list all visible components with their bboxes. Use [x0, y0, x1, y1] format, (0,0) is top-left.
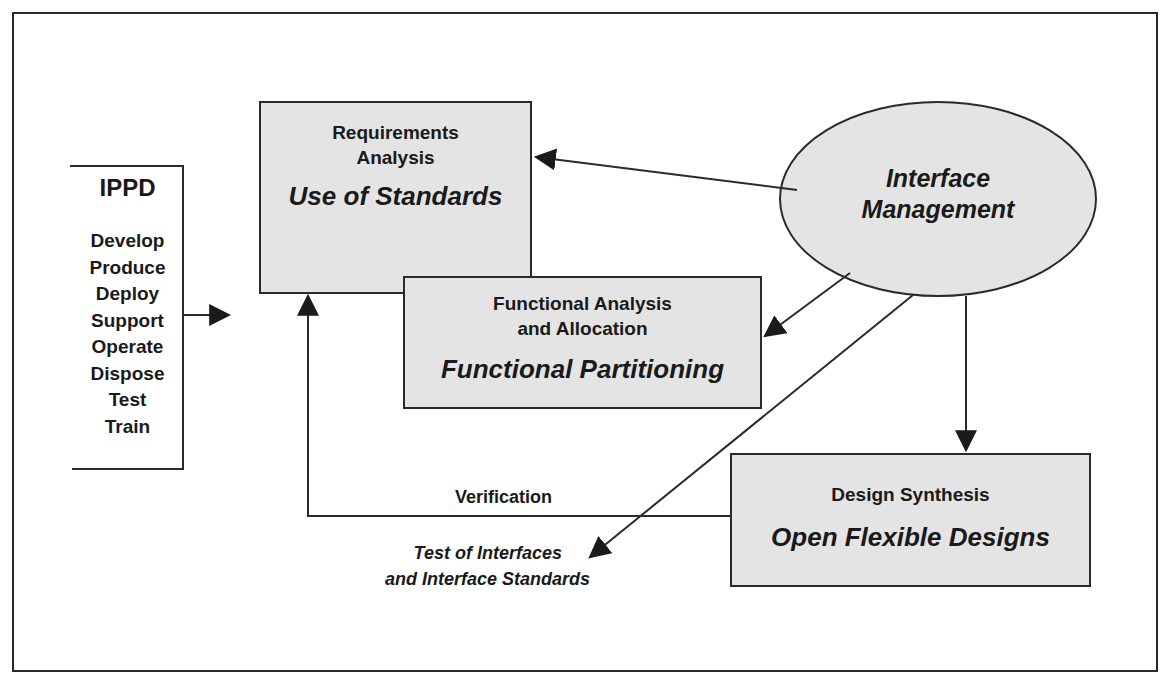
design-subtitle: Design Synthesis: [732, 482, 1089, 507]
test-label-line-2: and Interface Standards: [340, 566, 590, 592]
functional-main: Functional Partitioning: [405, 353, 760, 385]
requirements-subtitle-1: Requirements: [261, 120, 530, 145]
ippd-item: Test: [72, 387, 183, 414]
ippd-item: Support: [72, 308, 183, 335]
ippd-list: Develop Produce Deploy Support Operate D…: [72, 228, 183, 440]
verification-label: Verification: [455, 487, 552, 508]
functional-analysis-box: Functional Analysis and Allocation Funct…: [403, 276, 762, 409]
requirements-main: Use of Standards: [261, 180, 530, 212]
ippd-item: Produce: [72, 255, 183, 282]
ippd-item: Dispose: [72, 361, 183, 388]
ellipse-line-1: Interface: [800, 163, 1076, 194]
functional-subtitle-2: and Allocation: [405, 316, 760, 341]
ippd-item: Develop: [72, 228, 183, 255]
ellipse-line-2: Management: [800, 194, 1076, 225]
ippd-item: Operate: [72, 334, 183, 361]
design-synthesis-box: Design Synthesis Open Flexible Designs: [730, 453, 1091, 587]
requirements-subtitle-2: Analysis: [261, 145, 530, 170]
requirements-analysis-box: Requirements Analysis Use of Standards: [259, 101, 532, 294]
design-main: Open Flexible Designs: [732, 521, 1089, 553]
ippd-item: Train: [72, 414, 183, 441]
functional-subtitle-1: Functional Analysis: [405, 291, 760, 316]
test-label-line-1: Test of Interfaces: [340, 540, 590, 566]
ippd-title: IPPD: [72, 174, 183, 202]
test-of-interfaces-label: Test of Interfaces and Interface Standar…: [340, 540, 590, 592]
ippd-item: Deploy: [72, 281, 183, 308]
interface-management-label: Interface Management: [800, 163, 1076, 225]
